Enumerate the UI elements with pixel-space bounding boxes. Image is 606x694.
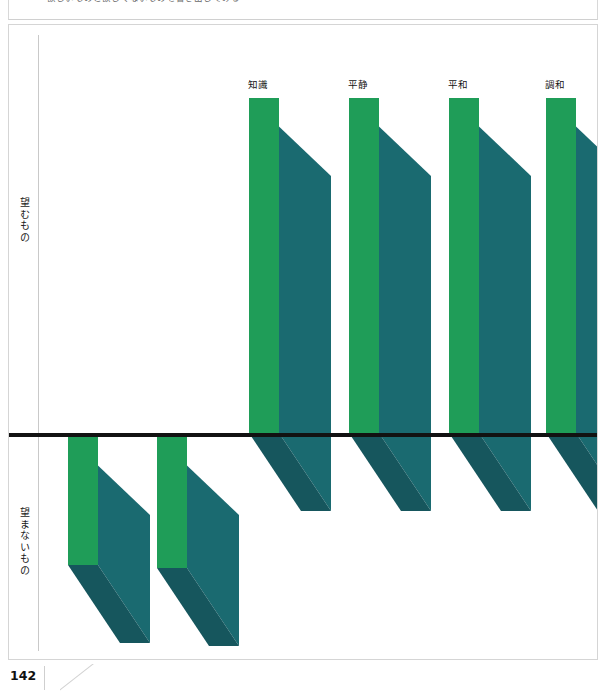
page-header-strip: 欲しいものと欲しくないものを書き出してみる <box>8 0 598 20</box>
bar-front-face <box>68 437 98 565</box>
zero-baseline <box>9 433 598 437</box>
bar-label-調和: 調和 <box>545 77 566 91</box>
bar-front-face <box>349 98 379 433</box>
bar-front-face <box>157 437 187 568</box>
bar-front-face <box>449 98 479 433</box>
footer-divider <box>44 666 45 690</box>
bar-平静 <box>349 98 431 511</box>
bar-知識 <box>249 98 331 511</box>
footer-slash-decoration <box>60 664 102 692</box>
page-root: 欲しいものと欲しくないものを書き出してみる 望むもの 望まないもの 冒険興奮知識… <box>0 0 606 694</box>
bar-label-平和: 平和 <box>448 77 469 91</box>
bar-平和 <box>449 98 531 511</box>
bar-series <box>9 25 598 660</box>
page-footer: 142 <box>0 660 606 694</box>
page-caption: 欲しいものと欲しくないものを書き出してみる <box>47 0 240 3</box>
bar-冒険 <box>68 437 150 643</box>
page-number: 142 <box>10 668 36 683</box>
bar-front-face <box>249 98 279 433</box>
bar-興奮 <box>157 437 239 646</box>
bar-label-知識: 知識 <box>248 77 269 91</box>
bar-label-平静: 平静 <box>348 77 369 91</box>
bar-調和 <box>546 98 598 511</box>
bar-front-face <box>546 98 576 433</box>
chart-frame: 望むもの 望まないもの 冒険興奮知識平静平和調和 <box>8 24 598 660</box>
plot-area <box>9 25 598 660</box>
